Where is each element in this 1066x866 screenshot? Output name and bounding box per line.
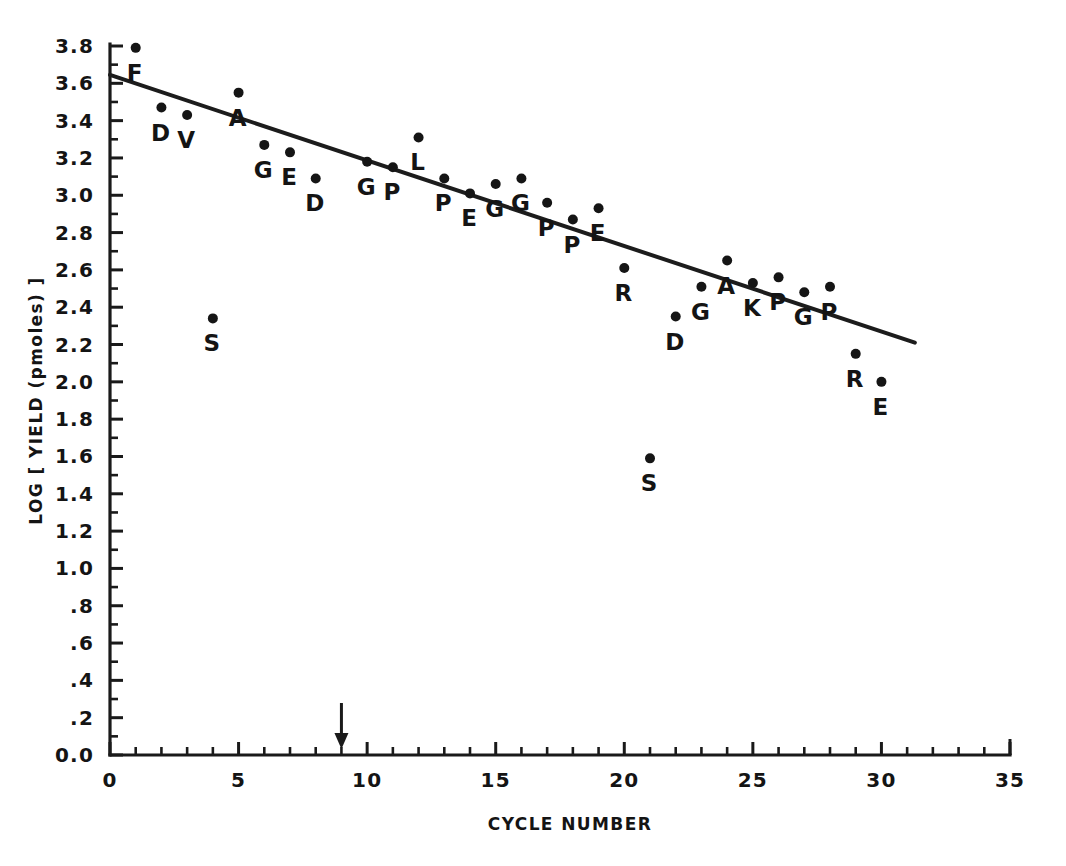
y-tick-label-1.2: 1.2 — [55, 519, 94, 543]
data-point-label-E-30: E — [873, 394, 889, 420]
data-point-label-G-15: G — [485, 196, 504, 222]
figure-container: FDVSAGEDGPLPEGGPPERSDGAKPGPRE 0.0.2.4.6.… — [0, 0, 1066, 866]
data-point-label-E-14: E — [461, 205, 477, 231]
x-tick-label-30: 30 — [866, 768, 896, 792]
data-point-label-G-10: G — [357, 174, 376, 200]
data-point-label-V-3: V — [177, 127, 195, 153]
x-axis-title: CYCLE NUMBER — [488, 814, 652, 834]
data-point-label-P-26: P — [769, 289, 786, 315]
x-tick-label-0: 0 — [102, 768, 117, 792]
x-tick-label-15: 15 — [481, 768, 511, 792]
data-point-label-P-13: P — [435, 190, 452, 216]
data-point-label-S-4: S — [204, 330, 221, 356]
y-tick-label-3.6: 3.6 — [55, 71, 94, 95]
data-point — [491, 179, 501, 189]
data-point-label-G-23: G — [691, 299, 710, 325]
axis-titles-layer: CYCLE NUMBERLOG [ YIELD (pmoles) ] — [26, 276, 652, 834]
y-tick-label-.4: .4 — [70, 668, 94, 692]
arrow-head-icon — [334, 733, 348, 749]
data-point — [388, 162, 398, 172]
data-point — [156, 103, 166, 113]
data-point — [825, 282, 835, 292]
data-point — [131, 43, 141, 53]
data-point-label-D-8: D — [305, 190, 324, 216]
data-point — [645, 453, 655, 463]
scatter-plot: FDVSAGEDGPLPEGGPPERSDGAKPGPRE 0.0.2.4.6.… — [0, 0, 1066, 866]
y-tick-label-0.0: 0.0 — [55, 743, 94, 767]
y-tick-label-2.4: 2.4 — [55, 295, 94, 319]
data-point — [234, 88, 244, 98]
y-tick-label-2.0: 2.0 — [55, 370, 94, 394]
data-point-label-E-7: E — [281, 164, 297, 190]
y-tick-label-2.2: 2.2 — [55, 333, 94, 357]
data-point-label-G-6: G — [254, 157, 273, 183]
data-point-label-K-25: K — [743, 295, 762, 321]
y-tick-label-1.6: 1.6 — [55, 444, 94, 468]
y-tick-label-3.4: 3.4 — [55, 109, 94, 133]
data-point — [722, 256, 732, 266]
data-point — [439, 173, 449, 183]
data-point — [311, 173, 321, 183]
data-point — [516, 173, 526, 183]
data-point-label-A-24: A — [717, 273, 735, 299]
data-point — [208, 313, 218, 323]
data-point-label-E-19: E — [590, 220, 606, 246]
data-point — [696, 282, 706, 292]
data-point — [594, 203, 604, 213]
data-point — [619, 263, 629, 273]
data-point-label-D-2: D — [151, 120, 170, 146]
data-point-label-D-22: D — [665, 329, 684, 355]
data-point-label-A-5: A — [229, 105, 247, 131]
x-tick-label-35: 35 — [995, 768, 1025, 792]
y-tick-label-1.0: 1.0 — [55, 556, 94, 580]
data-point — [465, 188, 475, 198]
data-point — [568, 215, 578, 225]
data-point — [285, 147, 295, 157]
data-point-label-P-28: P — [821, 299, 838, 325]
data-point-label-R-29: R — [846, 366, 864, 392]
y-tick-label-.2: .2 — [70, 706, 94, 730]
y-tick-label-1.8: 1.8 — [55, 407, 94, 431]
data-point-label-G-27: G — [794, 304, 813, 330]
data-point-label-P-11: P — [383, 179, 400, 205]
cycle-9-arrow — [334, 703, 348, 749]
data-point — [876, 377, 886, 387]
y-tick-label-.6: .6 — [70, 631, 94, 655]
data-point — [774, 272, 784, 282]
data-point — [851, 349, 861, 359]
x-tick-label-10: 10 — [352, 768, 382, 792]
data-point-label-L-12: L — [410, 149, 425, 175]
y-axis-title: LOG [ YIELD (pmoles) ] — [26, 276, 46, 524]
y-tick-label-2.6: 2.6 — [55, 258, 94, 282]
y-tick-label-1.4: 1.4 — [55, 482, 94, 506]
data-point — [748, 278, 758, 288]
data-point — [671, 312, 681, 322]
data-point — [542, 198, 552, 208]
y-tick-label-3.2: 3.2 — [55, 146, 94, 170]
data-point — [799, 287, 809, 297]
data-point-label-P-18: P — [563, 232, 580, 258]
data-point-label-P-17: P — [538, 215, 555, 241]
y-tick-label-3.0: 3.0 — [55, 183, 94, 207]
data-point-label-F-1: F — [127, 60, 143, 86]
data-point-label-G-16: G — [511, 190, 530, 216]
y-tick-label-2.8: 2.8 — [55, 221, 94, 245]
data-point — [414, 132, 424, 142]
data-point-label-S-21: S — [641, 470, 658, 496]
x-tick-label-20: 20 — [609, 768, 639, 792]
x-tick-label-25: 25 — [738, 768, 768, 792]
y-tick-label-.8: .8 — [70, 594, 94, 618]
data-point — [182, 110, 192, 120]
annotations-layer — [334, 703, 348, 749]
data-point-label-R-20: R — [614, 280, 632, 306]
y-tick-label-3.8: 3.8 — [55, 34, 94, 58]
data-point — [259, 140, 269, 150]
data-point — [362, 157, 372, 167]
x-tick-label-5: 5 — [231, 768, 246, 792]
